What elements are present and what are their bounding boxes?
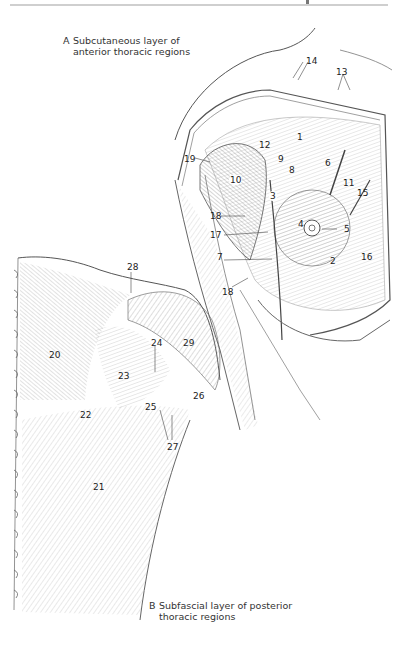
figure-b-caption-line2: thoracic regions [149, 611, 292, 622]
figure-a-caption-line2: anterior thoracic regions [63, 46, 190, 57]
label-23: 23 [118, 371, 129, 381]
label-19: 19 [184, 154, 195, 164]
figure-b-letter: B [149, 600, 156, 611]
label-27: 27 [167, 442, 178, 452]
figure-b-caption: B Subfascial layer of posterior thoracic… [149, 600, 292, 622]
label-21: 21 [93, 482, 104, 492]
label-14: 14 [306, 56, 317, 66]
label-25: 25 [145, 402, 156, 412]
anatomical-illustration [0, 0, 397, 647]
figure-b-caption-line1: Subfascial layer of posterior [149, 600, 292, 611]
label-5: 5 [344, 224, 350, 234]
label-18-upper: 18 [210, 211, 221, 221]
label-11: 11 [343, 178, 354, 188]
figure-b-drawing [14, 257, 220, 620]
label-4: 4 [298, 219, 304, 229]
figure-a-letter: A [63, 35, 70, 46]
label-9: 9 [278, 154, 284, 164]
label-10: 10 [229, 175, 242, 185]
label-13: 13 [336, 67, 347, 77]
figure-a-caption: A Subcutaneous layer of anterior thoraci… [63, 35, 190, 57]
label-18-lower: 18 [222, 287, 233, 297]
label-22: 22 [80, 410, 91, 420]
label-24: 24 [151, 338, 162, 348]
label-2: 2 [330, 256, 336, 266]
label-8: 8 [289, 165, 295, 175]
label-3: 3 [269, 191, 277, 201]
label-20: 20 [49, 350, 60, 360]
label-17: 17 [210, 230, 221, 240]
figure-a-caption-line1: Subcutaneous layer of [63, 35, 190, 46]
label-15: 15 [357, 188, 368, 198]
label-1: 1 [297, 132, 303, 142]
label-7: 7 [217, 252, 223, 262]
label-6: 6 [325, 158, 331, 168]
label-12: 12 [259, 140, 270, 150]
label-26: 26 [193, 391, 204, 401]
label-28: 28 [127, 262, 138, 272]
label-29: 29 [183, 338, 194, 348]
label-16: 16 [361, 252, 372, 262]
